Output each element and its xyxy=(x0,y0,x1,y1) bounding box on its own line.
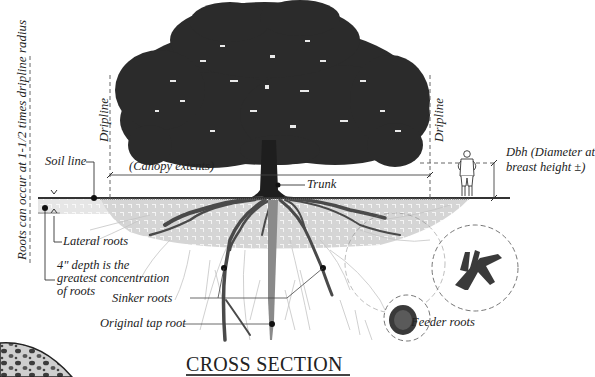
trunk-label: Trunk xyxy=(307,178,336,191)
dripline-right-label: Dripline xyxy=(431,98,447,142)
soil-magnified-circle xyxy=(0,343,72,377)
soil-line-label: Soil line xyxy=(45,155,86,168)
canopy-extents-label: (Canopy extents) xyxy=(129,160,214,173)
sinker-roots-label: Sinker roots xyxy=(112,292,172,305)
lateral-roots-label: Lateral roots xyxy=(63,235,128,248)
dbh-label-line2: breast height ±) xyxy=(506,161,585,174)
person-figure xyxy=(458,151,476,196)
dripline-left-label: Dripline xyxy=(96,98,112,142)
feeder-roots-label: Feeder roots xyxy=(411,316,475,329)
cross-section-diagram xyxy=(0,0,595,377)
roots-extent-label: Roots can occur at 1-1/2 times dripline … xyxy=(14,20,30,260)
depth-label-line3: of roots xyxy=(57,285,95,298)
title-underline xyxy=(186,374,350,376)
tap-root xyxy=(268,200,278,340)
original-tap-root-label: Original tap root xyxy=(100,317,186,330)
dbh-label-line1: Dbh (Diameter at xyxy=(506,146,595,159)
diagram-title: CROSS SECTION xyxy=(186,353,343,376)
